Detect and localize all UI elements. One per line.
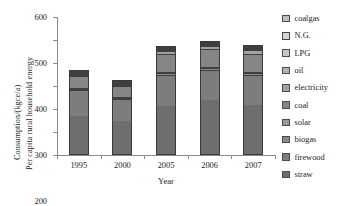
legend-swatch-icon bbox=[282, 119, 290, 127]
y-tick: 100 bbox=[53, 132, 57, 133]
bar-segment-coal bbox=[70, 76, 88, 88]
y-tick: 200 bbox=[53, 109, 57, 110]
y-tick-label: 400 bbox=[34, 105, 47, 114]
legend-item-electricity[interactable]: electricity bbox=[282, 79, 354, 96]
legend-swatch-icon bbox=[282, 101, 290, 109]
y-axis-title: Consumption/(kgce/a) Per capita rural ho… bbox=[0, 0, 34, 175]
stacked-bar-chart: Consumption/(kgce/a) Per capita rural ho… bbox=[0, 0, 354, 205]
legend-label: coal bbox=[295, 101, 309, 110]
x-tick bbox=[144, 155, 145, 159]
legend-item-biogas[interactable]: biogas bbox=[282, 131, 354, 148]
legend-item-firewood[interactable]: firewood bbox=[282, 148, 354, 165]
legend-item-coalgas[interactable]: coalgas bbox=[282, 10, 354, 27]
bar-2000 bbox=[112, 80, 132, 155]
legend-label: electricity bbox=[295, 83, 328, 92]
legend-swatch-icon bbox=[282, 84, 290, 92]
legend-item-lpg[interactable]: LPG bbox=[282, 45, 354, 62]
legend-label: biogas bbox=[295, 135, 317, 144]
bar-segment-firewood bbox=[70, 90, 88, 115]
legend-swatch-icon bbox=[282, 67, 290, 75]
legend-label: straw bbox=[295, 170, 313, 179]
y-tick: 600 bbox=[53, 17, 57, 18]
x-tick-label-2006: 2006 bbox=[201, 161, 218, 170]
legend-label: oil bbox=[295, 66, 304, 75]
legend-swatch-icon bbox=[282, 49, 290, 57]
y-tick-label: 500 bbox=[34, 59, 47, 68]
bar-segment-straw bbox=[201, 100, 219, 154]
legend-swatch-icon bbox=[282, 171, 290, 179]
x-axis-line bbox=[57, 155, 276, 156]
legend-swatch-icon bbox=[282, 15, 290, 23]
bar-segment-straw bbox=[157, 106, 175, 154]
legend-label: firewood bbox=[295, 153, 325, 162]
x-tick-label-2000: 2000 bbox=[114, 161, 131, 170]
legend-item-straw[interactable]: straw bbox=[282, 166, 354, 183]
y-tick: 300 bbox=[53, 86, 57, 87]
x-tick-label-1995: 1995 bbox=[70, 161, 87, 170]
x-tick bbox=[275, 155, 276, 159]
legend-swatch-icon bbox=[282, 136, 290, 144]
bar-segment-straw bbox=[113, 121, 131, 154]
x-tick bbox=[231, 155, 232, 159]
legend-item-coal[interactable]: coal bbox=[282, 96, 354, 113]
x-tick-label-2007: 2007 bbox=[245, 161, 262, 170]
bar-segment-firewood bbox=[113, 99, 131, 120]
x-tick bbox=[188, 155, 189, 159]
bar-segment-coal bbox=[201, 49, 219, 67]
bar-segment-coal bbox=[244, 54, 262, 72]
y-axis-line bbox=[57, 17, 58, 156]
x-tick bbox=[101, 155, 102, 159]
y-axis-title-line1: Consumption/(kgce/a) bbox=[13, 85, 22, 160]
bar-2007 bbox=[243, 45, 263, 155]
bar-segment-straw bbox=[244, 105, 262, 154]
legend-label: solar bbox=[295, 118, 311, 127]
bar-segment-coal bbox=[113, 86, 131, 97]
bar-segment-firewood bbox=[244, 75, 262, 105]
chart-legend: coalgasN.G.LPGoilelectricitycoalsolarbio… bbox=[282, 10, 354, 183]
x-tick-label-2005: 2005 bbox=[158, 161, 175, 170]
y-tick-label: 300 bbox=[34, 151, 47, 160]
y-tick: 500 bbox=[53, 40, 57, 41]
bar-segment-coal bbox=[157, 54, 175, 72]
bar-segment-firewood bbox=[201, 70, 219, 99]
y-axis-title-line2: Per capita rural household energy bbox=[25, 57, 34, 170]
x-axis-title: Year bbox=[57, 176, 275, 186]
legend-label: LPG bbox=[295, 49, 311, 58]
x-tick bbox=[57, 155, 58, 159]
bar-1995 bbox=[69, 70, 89, 155]
legend-label: coalgas bbox=[295, 14, 320, 23]
plot-area: 0100200300400500600 19952000200520062007 bbox=[57, 17, 275, 155]
bar-segment-straw bbox=[70, 116, 88, 155]
y-tick-label: 600 bbox=[34, 13, 47, 22]
y-tick: 400 bbox=[53, 63, 57, 64]
legend-item-solar[interactable]: solar bbox=[282, 114, 354, 131]
bar-2005 bbox=[156, 46, 176, 155]
y-tick-label: 200 bbox=[34, 197, 47, 206]
bar-segment-firewood bbox=[157, 75, 175, 106]
legend-label: N.G. bbox=[295, 31, 311, 40]
legend-item-oil[interactable]: oil bbox=[282, 62, 354, 79]
legend-swatch-icon bbox=[282, 32, 290, 40]
legend-item-ng[interactable]: N.G. bbox=[282, 27, 354, 44]
legend-swatch-icon bbox=[282, 153, 290, 161]
bar-2006 bbox=[200, 41, 220, 155]
